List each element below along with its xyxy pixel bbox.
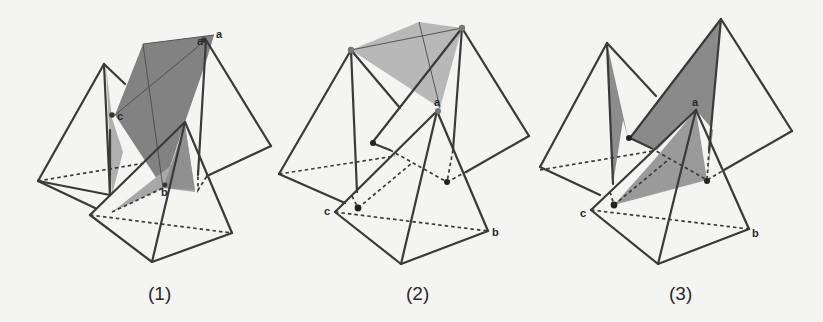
vertex-label-b: b [161, 186, 168, 198]
panel-caption-2: (2) [406, 283, 429, 305]
vertex-label-b: b [752, 227, 759, 239]
vertex-label-b: b [492, 226, 499, 238]
vertex-dot [611, 202, 618, 209]
vertex-dot [370, 140, 376, 146]
vertex-c-dot [109, 112, 115, 118]
vertex-a-dot [435, 108, 441, 114]
vertex-dot [626, 135, 632, 141]
panel-3: a b c [540, 19, 792, 264]
vertex-label-a-overlap: a [197, 35, 204, 47]
panel-2: a b c [279, 22, 529, 264]
panel-1: a a c b [38, 28, 271, 262]
panel-caption-1: (1) [148, 283, 171, 305]
vertex-label-a: a [216, 28, 223, 40]
vertex-dot [459, 25, 465, 31]
vertex-label-c: c [324, 205, 330, 217]
vertex-label-c: c [117, 110, 123, 122]
shaded-region-light [351, 22, 462, 108]
pyramid-edge [38, 64, 110, 195]
vertex-label-a: a [434, 96, 441, 108]
vertex-label-a: a [692, 96, 699, 108]
vertex-dot [444, 179, 450, 185]
vertex-dot [704, 178, 710, 184]
vertex-dot [348, 47, 354, 53]
panel-caption-3: (3) [669, 283, 692, 305]
vertex-dot [355, 205, 362, 212]
vertex-label-c: c [580, 207, 586, 219]
pyramid-figure: a a c b [0, 0, 823, 322]
